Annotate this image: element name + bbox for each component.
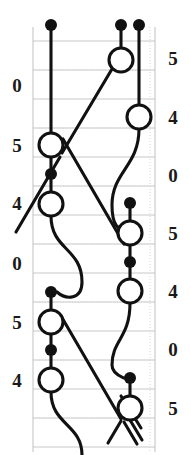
filled-dot-node [45, 19, 57, 31]
filled-dot-node [115, 19, 127, 31]
right-axis-tick-label: 4 [168, 108, 178, 127]
open-circle-node [118, 279, 142, 303]
open-circle-node [39, 368, 63, 392]
strand-segment [51, 392, 82, 455]
filled-dot-node [45, 168, 57, 180]
right-axis-tick-label: 5 [168, 49, 178, 68]
strand-segment [124, 422, 137, 444]
filled-dot-node [45, 286, 57, 298]
filled-dot-node [124, 372, 136, 384]
open-circle-node [39, 192, 63, 216]
right-axis-tick-label: 5 [168, 224, 178, 243]
braid-diagram-figure: 054054 5405405 [0, 0, 191, 455]
right-axis-tick-label: 4 [168, 282, 178, 301]
strand-segment [112, 303, 130, 378]
open-circle-node [39, 133, 63, 157]
right-axis-tick-label: 0 [168, 340, 178, 359]
open-circle-node [118, 221, 142, 245]
open-circle-node [127, 105, 151, 129]
strand-segment [62, 69, 112, 153]
left-axis-tick-label: 4 [12, 371, 22, 390]
left-axis-tick-label: 0 [12, 254, 22, 273]
right-axis-tick-label: 5 [168, 399, 178, 418]
filled-dot-node [124, 256, 136, 268]
open-circle-node [109, 48, 133, 72]
filled-dot-node [124, 197, 136, 209]
left-axis-tick-label: 5 [12, 313, 22, 332]
open-circle-node [118, 396, 142, 420]
filled-dot-node [133, 19, 145, 31]
right-axis-tick-label: 0 [168, 166, 178, 185]
left-axis-tick-label: 0 [12, 76, 22, 95]
braid-diagram-canvas [0, 0, 191, 455]
strand-segment [108, 421, 121, 443]
left-axis-tick-label: 5 [12, 136, 22, 155]
filled-dot-node [45, 344, 57, 356]
strand-segment [51, 216, 82, 297]
open-circle-node [39, 310, 63, 334]
left-axis-tick-label: 4 [12, 194, 22, 213]
